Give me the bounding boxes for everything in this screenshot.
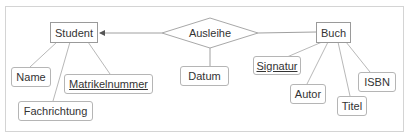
attribute-name[interactable]: Name [11,67,51,87]
edge-buch-autor [307,42,328,84]
edge-buch-isbn [346,42,370,72]
attribute-datum[interactable]: Datum [180,66,229,86]
attribute-fachrichtung[interactable]: Fachrichtung [18,101,93,121]
attribute-isbn[interactable]: ISBN [358,72,396,92]
attribute-matrikelnummer[interactable]: Matrikelnummer [64,74,153,94]
edge-student-name [30,42,57,67]
attribute-autor[interactable]: Autor [290,84,326,104]
edge-ausleihe-buch [258,32,316,33]
edge-student-matrikelnummer [88,42,110,74]
edge-buch-titel [338,42,350,96]
attribute-signatur[interactable]: Signatur [253,56,301,75]
attribute-titel[interactable]: Titel [337,96,367,116]
entity-student[interactable]: Student [50,22,98,43]
entity-buch[interactable]: Buch [316,22,351,43]
relationship-label-ausleihe: Ausleihe [178,24,242,42]
